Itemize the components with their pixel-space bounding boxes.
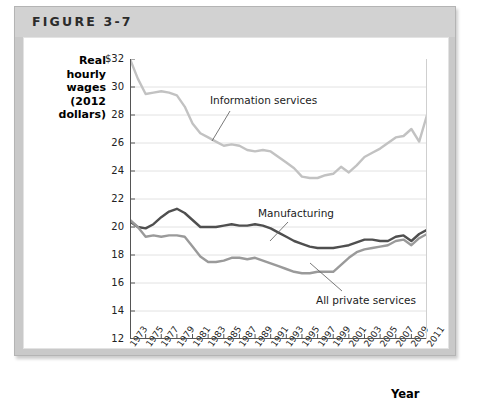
- y-tick-label: 30: [94, 81, 124, 92]
- y-tick-label: $32: [94, 53, 124, 64]
- figure-header-band: FIGURE 3-7: [15, 7, 455, 37]
- annotation-all-private-services: All private services: [316, 294, 416, 306]
- leader-line: [270, 222, 288, 241]
- y-tick-label: 16: [94, 277, 124, 288]
- page-root: FIGURE 3-7 Real hourly wages (2012 dolla…: [0, 0, 479, 409]
- y-tick-label: 20: [94, 221, 124, 232]
- y-tick-label: 26: [94, 137, 124, 148]
- figure-frame: FIGURE 3-7 Real hourly wages (2012 dolla…: [14, 6, 456, 356]
- chart-canvas: Real hourly wages (2012 dollars) $323028…: [24, 38, 448, 348]
- y-tick-label: 18: [94, 249, 124, 260]
- y-tick-label: 12: [94, 333, 124, 344]
- series-line: [130, 220, 427, 273]
- x-axis-title: Year: [391, 387, 420, 401]
- figure-body: Real hourly wages (2012 dollars) $323028…: [23, 37, 449, 349]
- plot-area: Information services Manufacturing All p…: [130, 59, 427, 339]
- series-line: [130, 59, 427, 178]
- figure-title: FIGURE 3-7: [32, 14, 133, 29]
- y-tick-label: 24: [94, 165, 124, 176]
- annotation-information-services: Information services: [210, 94, 317, 106]
- y-axis-title-line-4: (2012: [34, 95, 106, 109]
- y-axis-title-line-2: hourly: [34, 68, 106, 82]
- y-tick-label: 28: [94, 109, 124, 120]
- series-lines: [130, 59, 427, 273]
- y-tick-label: 22: [94, 193, 124, 204]
- y-tick-label: 14: [94, 305, 124, 316]
- annotation-leader-lines: [212, 111, 342, 291]
- annotation-manufacturing: Manufacturing: [258, 207, 334, 219]
